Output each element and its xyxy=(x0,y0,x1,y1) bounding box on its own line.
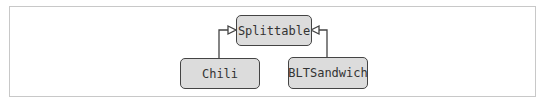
node-splittable: Splittable xyxy=(236,15,312,46)
node-chili: Chili xyxy=(180,58,260,89)
hollow-arrow-icon xyxy=(311,26,319,34)
node-label: BLTSandwich xyxy=(288,66,367,80)
node-label: Splittable xyxy=(238,24,310,38)
node-label: Chili xyxy=(202,67,238,81)
edge-chili-to-splittable xyxy=(219,30,228,58)
hollow-arrow-icon xyxy=(228,26,236,34)
edge-bltsandwich-to-splittable xyxy=(319,30,327,57)
node-bltsandwich: BLTSandwich xyxy=(288,57,368,89)
